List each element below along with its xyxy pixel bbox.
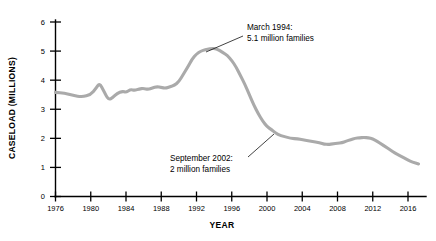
y-axis-group: 0123456 — [41, 18, 61, 202]
x-axis-group: 1976198019841988199219962000200420082012… — [47, 192, 426, 214]
x-tick-label: 1988 — [153, 204, 170, 213]
annotation-text: September 2002: — [170, 154, 233, 163]
y-tick-label: 6 — [41, 18, 45, 27]
x-tick-label: 2004 — [294, 204, 311, 213]
y-tick-label: 5 — [41, 47, 45, 56]
annotation-text: 5.1 million families — [247, 34, 314, 43]
annotation-text: 2 million families — [170, 165, 230, 174]
x-tick-label: 1992 — [188, 204, 205, 213]
x-tick-label: 2008 — [329, 204, 346, 213]
x-tick-label: 2016 — [400, 204, 417, 213]
annotation-leader-line — [206, 36, 243, 52]
y-tick-label: 1 — [41, 163, 45, 172]
annotation-text: March 1994: — [247, 23, 293, 32]
annotation-leader-line — [248, 134, 274, 157]
x-tick-label: 1980 — [82, 204, 99, 213]
annotation-group: March 1994:5.1 million familiesSeptember… — [170, 23, 314, 174]
caseload-line — [56, 48, 419, 163]
chart-canvas: 0123456 19761980198419881992199620002004… — [0, 0, 436, 241]
y-tick-group: 0123456 — [41, 18, 61, 202]
y-tick-label: 4 — [41, 76, 45, 85]
x-tick-label: 1984 — [118, 204, 135, 213]
y-axis-title: CASELOAD (MILLIONS) — [7, 57, 17, 159]
x-axis-title: YEAR — [210, 220, 235, 230]
caseload-chart: 0123456 19761980198419881992199620002004… — [0, 0, 436, 241]
x-tick-label: 1996 — [223, 204, 240, 213]
y-tick-label: 2 — [41, 134, 45, 143]
x-tick-group: 1976198019841988199219962000200420082012… — [47, 192, 416, 214]
data-series-group — [56, 48, 419, 163]
y-tick-label: 0 — [41, 192, 45, 201]
y-tick-label: 3 — [41, 105, 45, 114]
x-tick-label: 2012 — [364, 204, 381, 213]
x-tick-label: 1976 — [47, 204, 64, 213]
x-tick-label: 2000 — [259, 204, 276, 213]
